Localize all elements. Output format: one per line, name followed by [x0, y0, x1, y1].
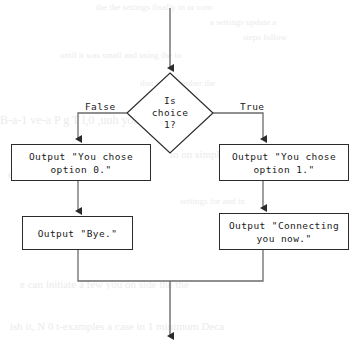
box-output-option-1: Output "You chose option 1.": [219, 144, 349, 181]
decision-label: Is choice 1?: [135, 95, 205, 131]
flowchart-canvas: the the settings finally in or coma sett…: [0, 0, 360, 349]
left-merge-connector: [78, 250, 170, 281]
false-branch-connector: [78, 113, 127, 139]
box-output-bye: Output "Bye.": [22, 216, 133, 250]
right-merge-connector: [170, 250, 263, 281]
true-branch-connector: [213, 113, 263, 139]
branch-label-false: False: [85, 101, 116, 113]
box-output-option-0: Output "You chose option 0.": [11, 144, 151, 181]
box-output-connecting: Output "Connecting you now.": [219, 213, 349, 250]
branch-label-true: True: [240, 101, 264, 113]
